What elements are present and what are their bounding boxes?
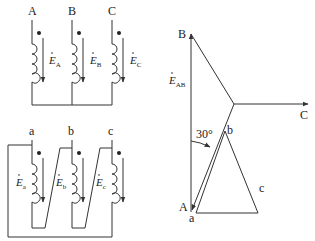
primary-winding-group: A B C EA EB EC xyxy=(28,4,142,105)
angle-arc-icon xyxy=(191,141,210,147)
transformer-connection-diagram: A B C EA EB EC a b c xyxy=(0,0,315,241)
terminal-label-B: B xyxy=(68,4,76,18)
angle-label: 30° xyxy=(196,127,213,141)
emf-label-a: Ea xyxy=(15,176,27,191)
polarity-dot-icon xyxy=(77,151,81,155)
vertex-a: a xyxy=(189,211,195,225)
vertex-C: C xyxy=(300,108,308,122)
vertex-b: b xyxy=(227,123,233,137)
emf-label-b: Eb xyxy=(55,176,67,191)
polarity-dot-icon xyxy=(77,31,81,35)
terminal-label-C: C xyxy=(108,4,116,18)
terminal-label-c: c xyxy=(108,124,113,138)
primary-coil-c xyxy=(112,20,123,105)
polarity-dot-icon xyxy=(37,151,41,155)
emf-label-c: Ec xyxy=(95,176,106,191)
primary-coil-a xyxy=(32,20,43,105)
polarity-dot-icon xyxy=(117,31,121,35)
polarity-dot-icon xyxy=(117,151,121,155)
emf-label-A: EA xyxy=(48,54,61,69)
phasor-diagram: B C A a b c 30° EAB xyxy=(168,27,308,225)
vertex-c: c xyxy=(259,181,264,195)
emf-label-B: EB xyxy=(89,54,102,69)
emf-label-AB: EAB xyxy=(168,74,186,89)
terminal-label-A: A xyxy=(28,4,37,18)
terminal-label-a: a xyxy=(29,124,35,138)
terminal-label-b: b xyxy=(68,124,74,138)
vertex-B: B xyxy=(178,27,186,41)
secondary-winding-group: a b c Ea Eb Ec xyxy=(8,124,123,237)
phasor-A-icon xyxy=(192,104,234,210)
polarity-dot-icon xyxy=(37,31,41,35)
secondary-triangle xyxy=(196,131,258,213)
emf-label-C: EC xyxy=(129,54,142,69)
primary-coil-b xyxy=(72,20,83,105)
vertex-A: A xyxy=(179,200,188,214)
